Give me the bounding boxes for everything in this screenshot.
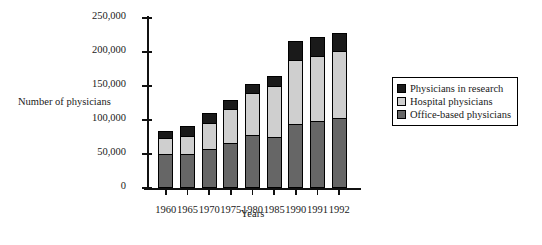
bar-segment[interactable] (310, 37, 325, 56)
bar-segment[interactable] (267, 137, 282, 188)
y-axis-tick-label: 50,000 (97, 146, 126, 158)
bar-stack[interactable] (180, 18, 195, 188)
legend-swatch-icon (397, 84, 406, 93)
bar-segment[interactable] (267, 86, 282, 138)
bar-stack[interactable] (332, 18, 347, 188)
y-axis-tick-label: 250,000 (92, 10, 126, 22)
legend-swatch-icon (397, 110, 406, 119)
bar-segment[interactable] (310, 121, 325, 188)
y-axis-tick: 100,000 (142, 119, 152, 121)
plot-area: 050,000100,000150,000200,000250,000 1960… (155, 18, 350, 188)
bar-segment[interactable] (267, 76, 282, 88)
bar-segment[interactable] (180, 154, 195, 188)
y-axis-tick: 0 (142, 187, 152, 189)
bar-segment[interactable] (245, 84, 260, 95)
bar-segment[interactable] (288, 60, 303, 126)
y-axis-tick-label: 100,000 (92, 112, 126, 124)
bar-segment[interactable] (332, 33, 347, 52)
x-axis-tick (295, 188, 297, 195)
y-axis-tick-label: 0 (121, 180, 126, 192)
bar-segment[interactable] (158, 138, 173, 155)
bar-segment[interactable] (223, 100, 238, 111)
bar-segment[interactable] (158, 154, 173, 188)
bar-stack[interactable] (288, 18, 303, 188)
bar-segment[interactable] (158, 131, 173, 139)
x-axis-tick (252, 188, 254, 195)
bar-segment[interactable] (223, 109, 238, 144)
bar-segment[interactable] (288, 41, 303, 61)
bar-segment[interactable] (310, 56, 325, 122)
bar-stack[interactable] (267, 18, 282, 188)
bar-stack[interactable] (310, 18, 325, 188)
legend-item[interactable]: Hospital physicians (397, 95, 511, 108)
x-axis-tick (208, 188, 210, 195)
x-axis-tick (317, 188, 319, 195)
bar-segment[interactable] (332, 51, 347, 119)
chart-legend: Physicians in researchHospital physician… (392, 77, 518, 126)
bar-stack[interactable] (223, 18, 238, 188)
x-axis-tick (165, 188, 167, 195)
y-axis-tick-label: 150,000 (92, 78, 126, 90)
y-axis-tick: 250,000 (142, 17, 152, 19)
y-axis-tick-label: 200,000 (92, 44, 126, 56)
legend-item-label: Office-based physicians (410, 108, 511, 121)
bar-segment[interactable] (332, 118, 347, 188)
bar-segment[interactable] (245, 93, 260, 135)
bar-segment[interactable] (180, 136, 195, 155)
bar-stack[interactable] (202, 18, 217, 188)
legend-item[interactable]: Office-based physicians (397, 108, 511, 121)
x-axis-tick (338, 188, 340, 195)
bar-segment[interactable] (202, 123, 217, 150)
y-axis-line (147, 16, 149, 189)
bar-segment[interactable] (180, 126, 195, 137)
x-axis-title: Years (155, 208, 350, 219)
legend-item[interactable]: Physicians in research (397, 82, 511, 95)
bar-segment[interactable] (202, 113, 217, 124)
x-axis-tick (230, 188, 232, 195)
bar-stack[interactable] (245, 18, 260, 188)
legend-item-label: Physicians in research (410, 82, 503, 95)
bar-segment[interactable] (202, 149, 217, 188)
x-axis-tick (273, 188, 275, 195)
legend-swatch-icon (397, 97, 406, 106)
y-axis-title: Number of physicians (18, 96, 138, 108)
bar-segment[interactable] (288, 124, 303, 188)
y-axis-tick: 150,000 (142, 85, 152, 87)
x-axis-tick (187, 188, 189, 195)
bar-stack[interactable] (158, 18, 173, 188)
chart-figure: Number of physicians 050,000100,000150,0… (0, 0, 542, 245)
bar-segment[interactable] (245, 135, 260, 188)
legend-item-label: Hospital physicians (410, 95, 493, 108)
y-axis-tick: 50,000 (142, 153, 152, 155)
bar-segment[interactable] (223, 143, 238, 188)
y-axis-tick: 200,000 (142, 51, 152, 53)
